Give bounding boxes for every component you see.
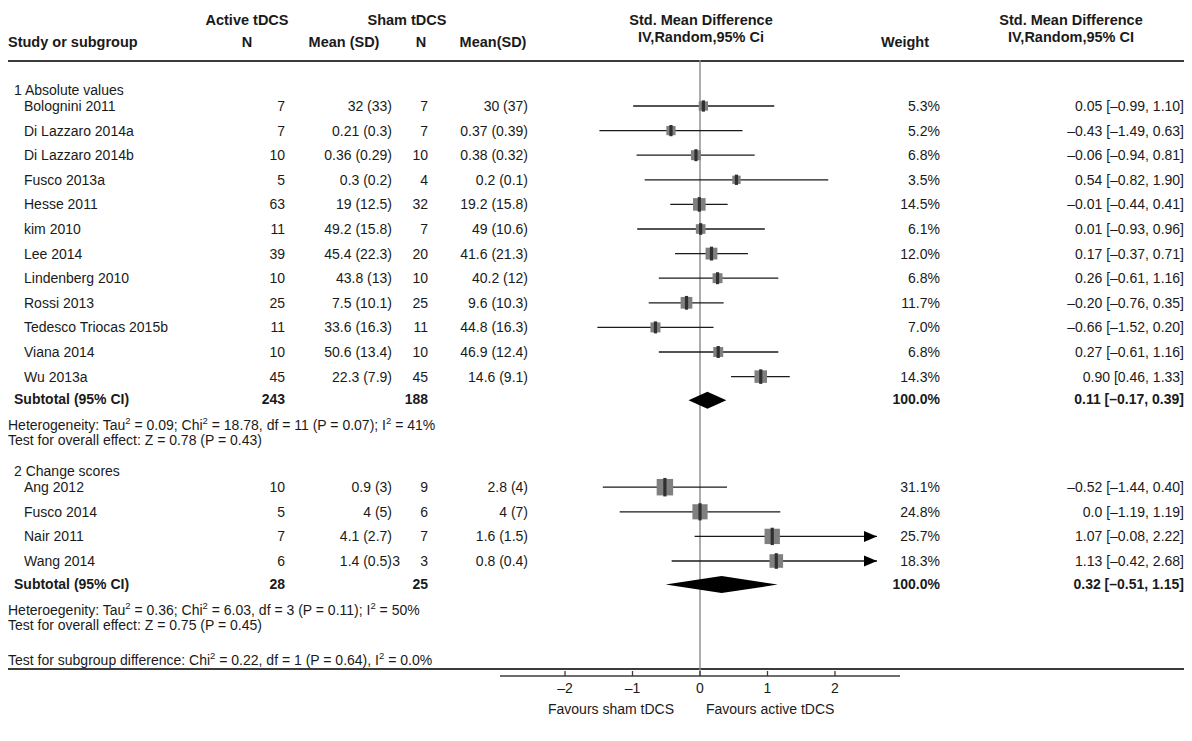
header-n-sham: N: [397, 34, 445, 50]
row-effect-estimate: 1.07 [–0.08, 2.22]: [0, 528, 1184, 544]
row-effect-estimate: 0.26 [–0.61, 1.16]: [0, 270, 1184, 286]
footer-rule: [8, 668, 1184, 670]
subgroup-difference-line: Test for subgroup difference: Chi2 = 0.2…: [8, 648, 432, 668]
row-effect-estimate: –0.01 [–0.44, 0.41]: [0, 196, 1184, 212]
row-effect-estimate: –0.43 [–1.49, 0.63]: [0, 123, 1184, 139]
row-effect-estimate: –0.20 [–0.76, 0.35]: [0, 295, 1184, 311]
axis-tick-label: –1: [608, 680, 658, 696]
header-effect-title: Std. Mean Difference IV,Random,95% CI: [958, 12, 1184, 46]
overall-effect-line: Test for overall effect: Z = 0.75 (P = 0…: [8, 617, 262, 633]
heterogeneity-line: Heteroegenity: Tau2 = 0.36; Chi2 = 6.03,…: [8, 598, 420, 618]
row-effect-estimate: –0.06 [–0.94, 0.81]: [0, 147, 1184, 163]
header-plot-title: Std. Mean Difference IV,Random,95% Ci: [577, 12, 825, 46]
header-effect-title-line2: IV,Random,95% CI: [958, 29, 1184, 46]
header-group-active: Active tDCS: [184, 12, 310, 28]
axis-tick-label: –2: [540, 680, 590, 696]
overall-effect-line: Test for overall effect: Z = 0.78 (P = 0…: [8, 432, 262, 448]
header-mean-sd-active: Mean (SD): [294, 34, 394, 50]
header-weight: Weight: [855, 34, 955, 50]
header-plot-title-line1: Std. Mean Difference: [577, 12, 825, 29]
header-rule: [8, 60, 1184, 62]
row-effect-estimate: 0.01 [–0.93, 0.96]: [0, 221, 1184, 237]
header-group-sham: Sham tDCS: [344, 12, 470, 28]
axis-caption-favours-sham: Favours sham tDCS: [548, 701, 674, 717]
row-effect-estimate: –0.52 [–1.44, 0.40]: [0, 479, 1184, 495]
row-effect-estimate: 0.0 [–1.19, 1.19]: [0, 504, 1184, 520]
subgroup-title: 2 Change scores: [14, 463, 120, 479]
row-effect-estimate: 0.27 [–0.61, 1.16]: [0, 344, 1184, 360]
axis-caption-favours-active: Favours active tDCS: [706, 701, 834, 717]
row-effect-estimate: 0.54 [–0.82, 1.90]: [0, 172, 1184, 188]
subtotal-effect-estimate: 0.32 [–0.51, 1.15]: [0, 576, 1184, 592]
row-effect-estimate: 0.05 [–0.99, 1.10]: [0, 98, 1184, 114]
header-study-or-subgroup: Study or subgroup: [8, 34, 138, 50]
header-plot-title-line2: IV,Random,95% Ci: [577, 29, 825, 46]
axis-tick-label: 0: [675, 680, 725, 696]
row-effect-estimate: 0.90 [0.46, 1.33]: [0, 369, 1184, 385]
subgroup-title: 1 Absolute values: [14, 82, 124, 98]
header-n-active: N: [215, 34, 279, 50]
subtotal-effect-estimate: 0.11 [–0.17, 0.39]: [0, 391, 1184, 407]
axis-tick-label: 2: [810, 680, 860, 696]
heterogeneity-line: Heterogeneity: Tau2 = 0.09; Chi2 = 18.78…: [8, 413, 435, 433]
row-effect-estimate: 0.17 [–0.37, 0.71]: [0, 246, 1184, 262]
axis-tick-label: 1: [743, 680, 793, 696]
row-effect-estimate: –0.66 [–1.52, 0.20]: [0, 319, 1184, 335]
header-mean-sd-sham: Mean(SD): [443, 34, 543, 50]
header-effect-title-line1: Std. Mean Difference: [958, 12, 1184, 29]
row-effect-estimate: 1.13 [–0.42, 2.68]: [0, 553, 1184, 569]
